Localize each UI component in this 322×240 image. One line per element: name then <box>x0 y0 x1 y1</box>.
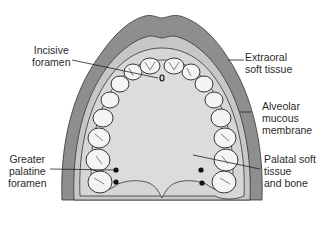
label-line: Greater <box>8 153 47 165</box>
label-line: mucous <box>262 112 312 124</box>
label-line: Alveolar <box>262 100 312 112</box>
label-line: tissue <box>264 165 316 177</box>
label-line: Extraoral <box>245 51 292 63</box>
label-extraoral-soft-tissue: Extraoral soft tissue <box>245 51 292 75</box>
label-incisive-foramen: Incisive foramen <box>32 44 71 68</box>
label-line: and bone <box>264 177 316 189</box>
label-alveolar-mucous-membrane: Alveolar mucous membrane <box>262 100 312 136</box>
label-line: membrane <box>262 124 312 136</box>
label-line: Incisive <box>32 44 71 56</box>
label-line: Palatal soft <box>264 153 316 165</box>
label-line: palatine <box>8 165 47 177</box>
label-line: foramen <box>32 56 71 68</box>
label-line: soft tissue <box>245 63 292 75</box>
label-line: foramen <box>8 177 47 189</box>
label-palatal-soft-tissue: Palatal soft tissue and bone <box>264 153 316 189</box>
label-greater-palatine-foramen: Greater palatine foramen <box>8 153 47 189</box>
